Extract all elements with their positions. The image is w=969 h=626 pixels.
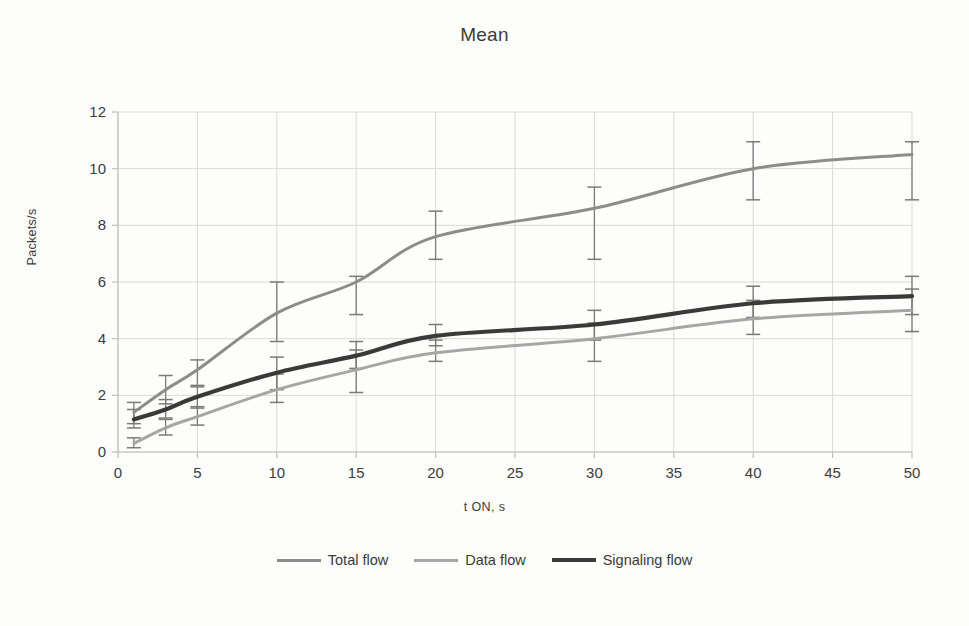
error-bar: [587, 187, 601, 259]
x-tick-label: 40: [745, 464, 762, 481]
plot-area: 02468101205101520253035404550: [0, 0, 969, 540]
legend-label: Total flow: [328, 552, 388, 568]
y-tick-label: 10: [89, 160, 106, 177]
legend-item-signaling-flow[interactable]: Signaling flow: [552, 552, 692, 568]
series-line-total-flow: [134, 155, 912, 413]
legend-swatch: [277, 559, 321, 562]
legend-item-data-flow[interactable]: Data flow: [414, 552, 525, 568]
y-tick-label: 12: [89, 103, 106, 120]
y-tick-label: 0: [98, 443, 106, 460]
x-tick-label: 0: [114, 464, 122, 481]
x-tick-label: 45: [824, 464, 841, 481]
y-tick-label: 8: [98, 216, 106, 233]
x-tick-label: 25: [507, 464, 524, 481]
x-tick-label: 50: [904, 464, 921, 481]
y-tick-label: 4: [98, 330, 106, 347]
chart-container: Mean Packets/s t ON, s 02468101205101520…: [0, 0, 969, 626]
x-tick-label: 30: [586, 464, 603, 481]
legend-item-total-flow[interactable]: Total flow: [277, 552, 388, 568]
legend-swatch: [414, 559, 458, 562]
legend-label: Data flow: [465, 552, 525, 568]
error-bar: [905, 142, 919, 200]
x-tick-label: 15: [348, 464, 365, 481]
legend-swatch: [552, 558, 596, 562]
chart-legend: Total flowData flowSignaling flow: [0, 552, 969, 568]
x-tick-label: 5: [193, 464, 201, 481]
x-tick-label: 35: [665, 464, 682, 481]
y-tick-label: 6: [98, 273, 106, 290]
legend-label: Signaling flow: [603, 552, 692, 568]
y-tick-label: 2: [98, 386, 106, 403]
x-tick-label: 10: [268, 464, 285, 481]
x-tick-label: 20: [427, 464, 444, 481]
